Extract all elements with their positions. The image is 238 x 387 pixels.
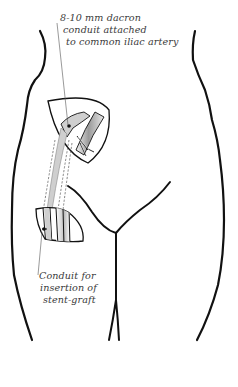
- diagram-canvas: 8-10 mm dacron conduit attached to commo…: [0, 0, 238, 387]
- label-line: 8-10 mm dacron: [60, 12, 178, 24]
- anatomy-illustration: [0, 0, 238, 387]
- label-line: to common iliac artery: [60, 36, 178, 48]
- thigh-inner-lines: [109, 233, 119, 340]
- leader-line-bottom: [38, 232, 42, 275]
- label-line: stent-graft: [39, 294, 97, 306]
- lower-incision: [36, 205, 83, 246]
- label-line: conduit attached: [60, 24, 178, 36]
- label-conduit-for-insertion: Conduit for insertion of stent-graft: [39, 270, 97, 306]
- label-dacron-conduit: 8-10 mm dacron conduit attached to commo…: [60, 12, 178, 48]
- body-outline-right: [193, 31, 224, 340]
- label-line: Conduit for: [39, 270, 97, 282]
- label-line: insertion of: [39, 282, 97, 294]
- groin-crease: [68, 182, 170, 233]
